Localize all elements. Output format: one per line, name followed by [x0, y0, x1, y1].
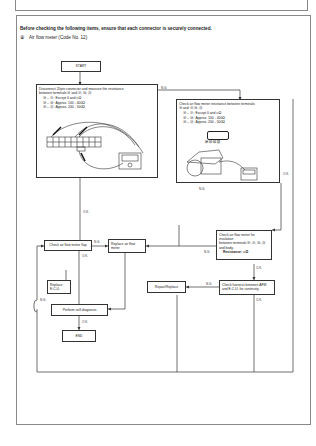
ok-label: O.K.: [256, 266, 262, 270]
step2-box: Check air flow meter resistance between …: [176, 99, 280, 183]
start-box: START: [61, 61, 101, 72]
step2-row: ⑳ – ㉓ : Approx. 200 - 500Ω: [183, 120, 277, 124]
ng-label: N.G.: [199, 187, 205, 191]
check-harness-box: Check harness between AFM and E.C.U. for…: [219, 280, 275, 295]
ok-label: O.K.: [83, 210, 89, 214]
insulation-line2: between terminals ⑳, ㉑, ㉒, ㉓: [219, 241, 269, 245]
step1-row: ⑳ – ㉓ : Approx. 200 - 500Ω: [43, 105, 155, 109]
ng-label: N.G.: [204, 250, 210, 254]
step2-line2: ⑳ and ㉑, ㉒, ㉓: [179, 106, 277, 110]
replace-afm-box: Replace air flow meter: [108, 239, 146, 253]
flow-lines: [0, 0, 316, 446]
afm-connector-icon: [207, 131, 229, 140]
ok-label: O.K.: [82, 320, 88, 324]
ng-label: N.G.: [94, 240, 100, 244]
self-diagnosis-box: Perform self-diagnosis: [51, 304, 108, 316]
insulation-line4: Resistance: ∞Ω: [223, 250, 269, 254]
check-insulation-box: Check air flow meter for insulation betw…: [216, 230, 272, 260]
ok-label: O.K.: [82, 254, 88, 258]
afm-illustration: [179, 144, 279, 184]
step1-line2: between terminals ⑳ and ㉑, ㉒, ㉓: [39, 91, 155, 95]
ok-label: O.K.: [256, 298, 262, 302]
ng-label: N.G.: [206, 282, 212, 286]
ng-label: N.G.: [161, 86, 167, 90]
ok-label: O.K.: [283, 172, 289, 176]
end-box: END: [62, 330, 96, 342]
ng-label: N.G.: [40, 298, 46, 302]
check-flap-box: Check air flow meter flap: [44, 240, 92, 251]
replace-ecu-box: Replace E.C.U.: [47, 280, 71, 294]
repair-replace-box: Repair/Replace: [147, 281, 186, 293]
step1-box: Disconnect 20pin connector and measure t…: [36, 84, 158, 178]
connector-meter-illustration: [39, 115, 157, 175]
